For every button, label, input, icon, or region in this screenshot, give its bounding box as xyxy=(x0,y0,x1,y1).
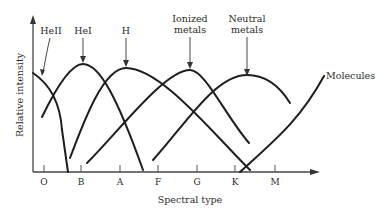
tick-label-o: O xyxy=(40,177,47,187)
label-ionized-line2: metals xyxy=(174,24,206,35)
label-hei: HeI xyxy=(74,25,92,36)
tick-label-b: B xyxy=(78,177,85,187)
curve-ionized-metals xyxy=(87,70,249,163)
arrowhead-h-icon xyxy=(123,60,129,67)
tick-label-a: A xyxy=(116,177,124,187)
y-axis-title: Relative intensity xyxy=(14,52,25,137)
arrowhead-ionized-icon xyxy=(187,62,193,69)
spectral-line-diagram: O B A F G K M Spectral type Relative int… xyxy=(0,0,379,214)
label-h: H xyxy=(122,25,130,36)
tick-label-g: G xyxy=(193,177,200,187)
curve-neutral-metals xyxy=(153,75,290,160)
tick-label-f: F xyxy=(155,177,161,187)
curve-heii xyxy=(33,73,68,172)
x-axis-arrow-icon xyxy=(310,169,320,175)
curve-molecules xyxy=(240,76,324,172)
pointer-heii xyxy=(43,38,50,73)
x-axis-title: Spectral type xyxy=(158,194,223,205)
curve-hei xyxy=(42,64,143,170)
label-ionized-line1: Ionized xyxy=(172,13,207,24)
label-neutral-line1: Neutral xyxy=(228,13,265,24)
label-neutral-line2: metals xyxy=(231,24,263,35)
label-heii: HeII xyxy=(40,25,62,36)
y-axis-arrow-icon xyxy=(30,15,36,24)
tick-label-k: K xyxy=(232,177,239,187)
tick-label-m: M xyxy=(270,177,279,187)
arrowhead-heii-icon xyxy=(40,69,45,76)
label-molecules: Molecules xyxy=(326,70,375,81)
arrowhead-hei-icon xyxy=(80,56,86,63)
